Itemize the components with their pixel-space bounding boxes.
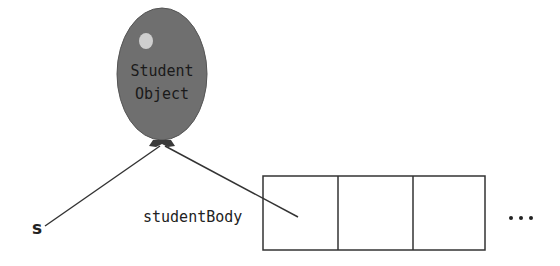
variable-s-label: s [32,218,42,238]
reference-line-studentBody [165,146,298,217]
array-name-label: studentBody [143,208,242,226]
balloon-knot [149,140,175,147]
array-boxes [263,176,485,250]
diagram-canvas: Student Object s studentBody [0,0,560,266]
balloon-highlight [139,33,153,49]
balloon-text-line2: Object [135,85,189,103]
ellipsis-dots [509,216,533,220]
array-outline [263,176,485,250]
balloon-student-object: Student Object [117,8,207,147]
balloon-text-line1: Student [130,62,193,80]
